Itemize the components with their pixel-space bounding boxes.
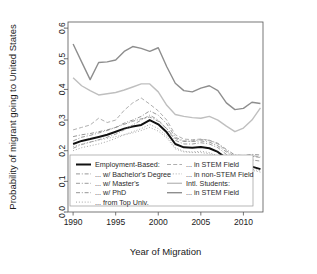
chart-legend: Employment-Based:... w/ Bachelor's Degre…	[70, 155, 254, 207]
x-tick-label: 2010	[234, 217, 253, 227]
y-axis-title: Probability of migrant going to United S…	[7, 24, 18, 210]
chart-background	[0, 0, 317, 274]
line-chart: 0.00.10.20.30.40.50.6 199019952000200520…	[0, 0, 317, 274]
legend-label: ... in non-STEM Field	[186, 170, 254, 179]
y-tick-label: 0.2	[57, 145, 67, 157]
legend-label: ... in STEM Field	[186, 160, 239, 169]
legend-label: Intl. Students:	[186, 179, 230, 188]
x-tick-label: 2000	[149, 217, 168, 227]
legend-label: ... from Top Univ.	[95, 198, 149, 207]
legend-label: ... in STEM Field	[186, 188, 239, 197]
legend-label: Employment-Based:	[95, 160, 160, 169]
y-tick-label: 0.3	[57, 114, 67, 126]
legend-label: ... w/ Bachelor's Degree	[95, 170, 171, 179]
chart-figure: 0.00.10.20.30.40.50.6 199019952000200520…	[0, 0, 317, 274]
x-tick-label: 1990	[64, 217, 83, 227]
x-tick-label: 2005	[191, 217, 210, 227]
y-tick-label: 0.1	[57, 175, 67, 187]
y-tick-label: 0.5	[57, 53, 67, 65]
x-tick-label: 1995	[106, 217, 125, 227]
legend-label: ... w/ Master's	[95, 179, 140, 188]
y-tick-label: 0.4	[57, 83, 67, 95]
x-axis-title: Year of Migration	[130, 246, 201, 257]
y-tick-label: 0.6	[57, 22, 67, 34]
legend-label: ... w/ PhD	[95, 188, 126, 197]
